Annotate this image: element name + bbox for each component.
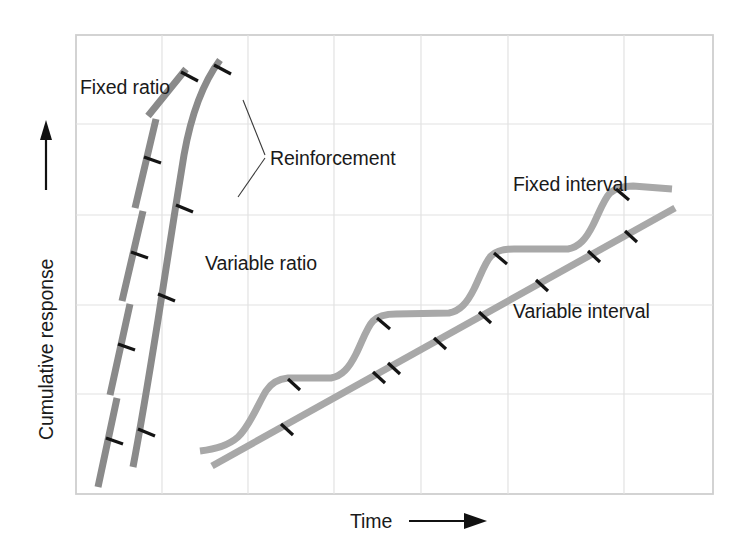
label-reinforcement: Reinforcement	[270, 147, 396, 169]
reinforcement-schedules-chart: Fixed ratio Variable ratio Fixed interva…	[0, 0, 741, 558]
label-fixed-ratio: Fixed ratio	[80, 76, 170, 98]
plot-frame	[76, 35, 713, 494]
y-axis-title: Cumulative response	[35, 259, 57, 440]
up-arrow-icon	[40, 120, 52, 140]
label-fixed-interval: Fixed interval	[513, 173, 628, 195]
right-arrow-icon	[464, 513, 487, 529]
label-variable-interval: Variable interval	[513, 300, 650, 322]
x-axis-title: Time	[350, 510, 392, 532]
y-axis-arrow	[40, 120, 52, 190]
label-variable-ratio: Variable ratio	[205, 252, 317, 274]
x-axis-arrow	[409, 513, 487, 529]
cumulative-response-figure: Fixed ratio Variable ratio Fixed interva…	[0, 0, 741, 558]
